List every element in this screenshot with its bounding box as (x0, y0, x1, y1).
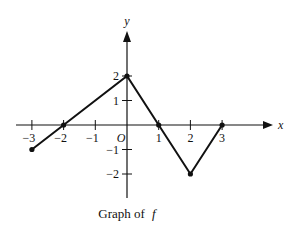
caption-text: Graph of (98, 206, 145, 221)
data-point (124, 73, 129, 78)
x-tick-label: −3 (23, 131, 36, 145)
labels: −3−2−112321−1−2xyO (23, 14, 284, 181)
x-axis-label: x (277, 118, 284, 132)
x-tick-label: −1 (86, 131, 99, 145)
data-point (29, 147, 34, 152)
x-tick-label: 1 (156, 131, 162, 145)
data-point (61, 122, 66, 127)
x-axis-arrow-icon (263, 121, 273, 129)
y-tick-label: −2 (106, 167, 119, 181)
y-axis-arrow-icon (123, 31, 131, 42)
axes (16, 31, 273, 198)
data-point (188, 171, 193, 176)
y-axis-label: y (123, 14, 130, 28)
x-tick-label: −2 (54, 131, 67, 145)
y-tick-label: 1 (113, 94, 119, 108)
chart-caption: Graph of f (98, 206, 158, 221)
x-tick-label: 2 (187, 131, 193, 145)
caption-function-name: f (152, 206, 158, 221)
data-point (156, 122, 161, 127)
origin-label: O (117, 131, 126, 145)
y-tick-label: 2 (113, 69, 119, 83)
x-tick-label: 3 (219, 131, 225, 145)
graph-of-f: −3−2−112321−1−2xyO Graph of f (0, 0, 289, 228)
data-point (220, 122, 225, 127)
